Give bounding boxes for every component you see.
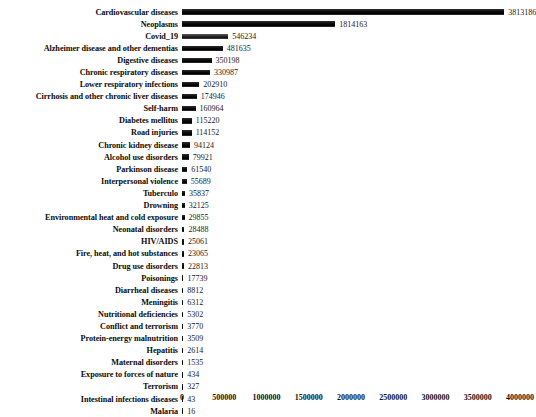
category-label: Digestive diseases — [0, 56, 182, 65]
category-label: HIV/AIDS — [0, 237, 182, 246]
category-label: Chronic kidney disease — [0, 141, 182, 150]
chart-row: Neonatal disorders28488 — [0, 224, 534, 236]
category-label: Diabetes mellitus — [0, 116, 182, 125]
chart-row: Neoplasms1814163 — [0, 18, 534, 30]
chart-row: Interpersonal violence55689 — [0, 175, 534, 187]
category-label: Nutritional deficiencies — [0, 310, 182, 319]
bar-value-label: 5302 — [183, 310, 203, 319]
bar-value-label: 3770 — [183, 322, 203, 331]
chart-row: Cirrhosis and other chronic liver diseas… — [0, 91, 534, 103]
chart-row: Diabetes mellitus115220 — [0, 115, 534, 127]
category-label: Parkinson disease — [0, 165, 182, 174]
x-axis-tick-label: 1500000 — [295, 393, 323, 403]
bar-value-label: 174946 — [197, 92, 225, 101]
bar — [182, 130, 192, 135]
bar-value-label: 29855 — [185, 213, 209, 222]
bar — [182, 142, 190, 147]
chart-row: Meningitis6312 — [0, 296, 534, 308]
bar — [182, 94, 197, 99]
chart-rows: Cardiovascular diseases3813186Neoplasms1… — [0, 6, 534, 417]
category-label: Protein-energy malnutrition — [0, 334, 182, 343]
chart-row: Lower respiratory infections202910 — [0, 79, 534, 91]
category-label: Chronic respiratory diseases — [0, 68, 182, 77]
category-label: Covid_19 — [0, 32, 182, 41]
bar-track: 8812 — [182, 284, 534, 296]
x-axis-tick-label: 3500000 — [464, 393, 492, 403]
category-label: Exposure to forces of nature — [0, 370, 182, 379]
bar-track: 29855 — [182, 212, 534, 224]
bar-track: 2614 — [182, 345, 534, 357]
category-label: Self-harm — [0, 104, 182, 113]
bar-track: 25061 — [182, 236, 534, 248]
chart-row: Chronic kidney disease94124 — [0, 139, 534, 151]
bar-track: 350198 — [182, 54, 534, 66]
bar-value-label: 17739 — [183, 274, 207, 283]
category-label: Terrorism — [0, 382, 182, 391]
category-label: Alcohol use disorders — [0, 153, 182, 162]
x-axis-tick-label: 3000000 — [422, 393, 450, 403]
bar-value-label: 330987 — [210, 68, 238, 77]
chart-row: Drowning32125 — [0, 200, 534, 212]
category-label: Hepatitis — [0, 346, 182, 355]
bar-track: 6312 — [182, 296, 534, 308]
bar-value-label: 160964 — [196, 104, 224, 113]
bar-value-label: 1814163 — [335, 20, 367, 29]
bar-value-label: 546234 — [228, 32, 256, 41]
chart-row: Chronic respiratory diseases330987 — [0, 66, 534, 78]
bar-value-label: 202910 — [199, 80, 227, 89]
chart-row: Poisonings17739 — [0, 272, 534, 284]
bar-value-label: 481635 — [223, 44, 251, 53]
chart-row: Digestive diseases350198 — [0, 54, 534, 66]
bar — [182, 82, 199, 87]
bar — [182, 21, 335, 26]
bar-track: 17739 — [182, 272, 534, 284]
bar-track: 22813 — [182, 260, 534, 272]
category-label: Fire, heat, and hot substances — [0, 249, 182, 258]
bar-track: 114152 — [182, 127, 534, 139]
bar-value-label: 25061 — [184, 237, 208, 246]
x-axis-tick-label: 0 — [180, 393, 184, 403]
chart-row: Alzheimer disease and other dementias481… — [0, 42, 534, 54]
bar-track: 32125 — [182, 200, 534, 212]
bar-track: 28488 — [182, 224, 534, 236]
bar-value-label: 3509 — [183, 334, 203, 343]
bar-value-label: 114152 — [192, 128, 220, 137]
category-label: Drug use disorders — [0, 262, 182, 271]
bar-value-label: 55689 — [187, 177, 211, 186]
bar-track: 61540 — [182, 163, 534, 175]
chart-row: Tuberculo35837 — [0, 187, 534, 199]
bar — [182, 154, 189, 159]
x-axis-tick-label: 1000000 — [253, 393, 281, 403]
category-label: Drowning — [0, 201, 182, 210]
bar-track: 35837 — [182, 187, 534, 199]
chart-row: Cardiovascular diseases3813186 — [0, 6, 534, 18]
category-label: Intestinal infections diseases — [0, 395, 182, 404]
bar-value-label: 1535 — [183, 358, 203, 367]
chart-row: HIV/AIDS25061 — [0, 236, 534, 248]
bar-track: 115220 — [182, 115, 534, 127]
bar-track: 3509 — [182, 333, 534, 345]
bar-value-label: 35837 — [185, 189, 209, 198]
chart-row: Covid_19546234 — [0, 30, 534, 42]
x-axis-tick-label: 2000000 — [337, 393, 365, 403]
x-axis-tick-label: 500000 — [212, 393, 236, 403]
bar-value-label: 32125 — [185, 201, 209, 210]
chart-row: Drug use disorders22813 — [0, 260, 534, 272]
category-label: Maternal disorders — [0, 358, 182, 367]
category-label: Neonatal disorders — [0, 225, 182, 234]
bar-value-label: 434 — [183, 370, 199, 379]
bar-track: 327 — [182, 381, 534, 393]
bar-track: 55689 — [182, 175, 534, 187]
bar-value-label: 115220 — [192, 116, 220, 125]
chart-row: Maternal disorders1535 — [0, 357, 534, 369]
chart-row: Exposure to forces of nature434 — [0, 369, 534, 381]
bar-track: 3813186 — [182, 6, 536, 18]
bar — [182, 9, 504, 14]
category-label: Cardiovascular diseases — [0, 8, 182, 17]
bar-track: 3770 — [182, 320, 534, 332]
bar-value-label: 23065 — [184, 249, 208, 258]
category-label: Road injuries — [0, 128, 182, 137]
bar-value-label: 94124 — [190, 141, 214, 150]
chart-row: Terrorism327 — [0, 381, 534, 393]
category-label: Interpersonal violence — [0, 177, 182, 186]
